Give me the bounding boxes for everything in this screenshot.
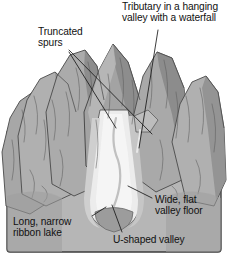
label-hanging-valley-waterfall: Tributary in a hanging valley with a wat…: [122, 1, 218, 24]
label-truncated-spurs: Truncated spurs: [38, 26, 83, 49]
label-wide-flat-valley-floor: Wide, flat valley floor: [155, 194, 203, 217]
label-long-narrow-ribbon-lake: Long, narrow ribbon lake: [13, 216, 71, 239]
glaciated-valley-diagram: Truncated spurs Tributary in a hanging v…: [0, 0, 228, 255]
label-u-shaped-valley: U-shaped valley: [113, 234, 185, 245]
